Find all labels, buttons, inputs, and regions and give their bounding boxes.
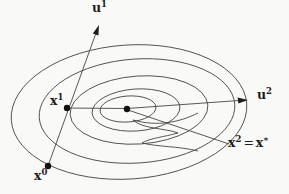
contour-ellipse-3 <box>68 71 210 148</box>
contour-ellipse-2 <box>91 86 182 134</box>
xstar-label-sup: ∗ <box>263 134 269 144</box>
x0-label-sup: 0 <box>41 167 47 177</box>
x2-center-point <box>124 106 130 112</box>
x2-equals-xstar-label: x2=x∗ <box>228 137 269 150</box>
diagram-canvas <box>0 0 289 194</box>
x1-point <box>64 105 70 111</box>
u2-label: u2 <box>257 89 272 102</box>
spiral-squiggle <box>133 113 198 151</box>
x2-leader-line <box>128 110 229 144</box>
u1-arrowhead-icon <box>93 25 99 35</box>
u1-label-base: u <box>92 0 101 15</box>
conjugate-directions-diagram: u1 u2 x1 x0 x2=x∗ <box>0 0 289 194</box>
x1-label-sup: 1 <box>57 92 63 102</box>
x0-label: x0 <box>34 170 47 183</box>
x1-label: x1 <box>50 95 63 108</box>
u1-label-sup: 1 <box>101 0 107 9</box>
contour-ellipses <box>7 37 252 187</box>
equals-sign: = <box>241 135 255 150</box>
u1-label: u1 <box>92 2 107 15</box>
u2-label-base: u <box>257 87 266 102</box>
u2-label-sup: 2 <box>266 86 272 96</box>
